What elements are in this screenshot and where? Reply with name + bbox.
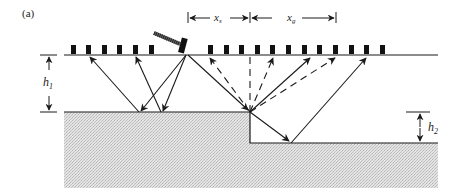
h1-label: h1 xyxy=(43,75,53,91)
xg-label: xg xyxy=(286,11,296,25)
hammer-source-icon xyxy=(154,33,188,54)
h2-dimension: h2 xyxy=(406,112,438,141)
seismic-diagram: (a) h1 h2 xs xg xyxy=(0,0,458,195)
panel-label: (a) xyxy=(22,7,35,20)
h2-label: h2 xyxy=(428,120,438,136)
xs-label: xs xyxy=(213,11,222,25)
offset-dimensions: xs xg xyxy=(188,11,336,25)
h1-dimension: h1 xyxy=(40,55,57,112)
geophone-array xyxy=(71,45,385,54)
rock-layer xyxy=(64,112,438,188)
